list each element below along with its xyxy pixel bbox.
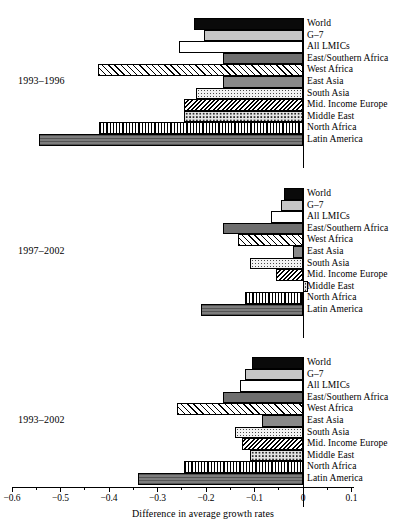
x-tick [254, 487, 255, 492]
bar-label: East Asia [307, 246, 344, 258]
bar-row: World [0, 188, 406, 200]
bar-east-southern-africa [223, 392, 303, 404]
x-tick-label: −0.3 [149, 493, 166, 503]
x-tick-label: −0.6 [3, 493, 20, 503]
x-tick [12, 487, 13, 492]
bar-label: East/Southern Africa [307, 53, 388, 65]
bar-row: Middle East [0, 281, 406, 293]
bar-row: Mid. Income Europe [0, 438, 406, 450]
bar-row: Latin America [0, 473, 406, 485]
x-tick-label: −0.4 [100, 493, 117, 503]
x-minor-tick [230, 487, 231, 490]
bar-latin-america [39, 134, 303, 146]
bar-row: East/Southern Africa [0, 53, 406, 65]
bar-row: G–7 [0, 200, 406, 212]
bar-south-asia [235, 427, 303, 439]
bar-g-7 [245, 369, 303, 381]
bar-all-lmics [179, 41, 303, 53]
bar-label: East/Southern Africa [307, 223, 388, 235]
bar-east-southern-africa [223, 223, 303, 235]
chart-panel: 1997–2002WorldG–7All LMICsEast/Southern … [0, 188, 406, 316]
bar-label: All LMICs [307, 380, 350, 392]
bar-label: South Asia [307, 88, 349, 100]
bar-east-asia [223, 76, 303, 88]
bar-label: West Africa [307, 234, 353, 246]
bar-row: South Asia [0, 258, 406, 270]
x-minor-tick [133, 487, 134, 490]
x-axis-label: Difference in average growth rates [0, 508, 406, 519]
bar-north-africa [99, 122, 303, 134]
bar-label: North Africa [307, 122, 356, 134]
bar-row: G–7 [0, 30, 406, 42]
bar-label: G–7 [307, 30, 324, 42]
bar-label: World [307, 18, 331, 30]
x-tick [60, 487, 61, 492]
bar-all-lmics [271, 211, 303, 223]
bar-row: South Asia [0, 88, 406, 100]
bar-row: East/Southern Africa [0, 223, 406, 235]
bar-row: West Africa [0, 403, 406, 415]
bar-g-7 [204, 30, 303, 42]
bar-row: World [0, 18, 406, 30]
x-tick-label: −0.1 [246, 493, 263, 503]
bar-label: Middle East [307, 111, 354, 123]
bar-mid-income-europe [242, 438, 303, 450]
bar-row: West Africa [0, 234, 406, 246]
x-minor-tick [327, 487, 328, 490]
bar-row: East/Southern Africa [0, 392, 406, 404]
bar-label: Middle East [307, 281, 354, 293]
bar-west-africa [177, 403, 303, 415]
bar-south-asia [250, 258, 303, 270]
bar-row: North Africa [0, 292, 406, 304]
bar-west-africa [98, 64, 303, 76]
bar-row: Mid. Income Europe [0, 99, 406, 111]
bar-label: Middle East [307, 450, 354, 462]
bar-label: G–7 [307, 200, 324, 212]
x-tick-label: −0.5 [52, 493, 69, 503]
x-tick [351, 487, 352, 492]
bar-middle-east [184, 111, 303, 123]
bar-row: Middle East [0, 450, 406, 462]
bar-row: Mid. Income Europe [0, 269, 406, 281]
bar-chart: 1993–1996WorldG–7All LMICsEast/Southern … [0, 0, 406, 526]
x-minor-tick [36, 487, 37, 490]
bar-row: All LMICs [0, 380, 406, 392]
bar-row: North Africa [0, 122, 406, 134]
bar-label: Latin America [307, 304, 363, 316]
bar-middle-east [250, 450, 303, 462]
bar-label: Mid. Income Europe [307, 269, 388, 281]
bar-all-lmics [240, 380, 303, 392]
x-axis: −0.6−0.5−0.4−0.3−0.2−0.100.1 Difference … [0, 487, 406, 526]
bar-label: Mid. Income Europe [307, 99, 388, 111]
bar-world [252, 357, 303, 369]
bar-mid-income-europe [276, 269, 303, 281]
x-minor-tick [278, 487, 279, 490]
bar-row: East Asia [0, 246, 406, 258]
bar-label: South Asia [307, 258, 349, 270]
x-tick [109, 487, 110, 492]
bar-label: North Africa [307, 461, 356, 473]
chart-panel: 1993–2002WorldG–7All LMICsEast/Southern … [0, 357, 406, 485]
bar-label: North Africa [307, 292, 356, 304]
bar-north-africa [245, 292, 303, 304]
bar-row: World [0, 357, 406, 369]
bar-world [194, 18, 303, 30]
bar-label: Latin America [307, 473, 363, 485]
bar-world [284, 188, 303, 200]
x-tick [157, 487, 158, 492]
bar-g-7 [281, 200, 303, 212]
x-tick [206, 487, 207, 492]
bar-label: West Africa [307, 403, 353, 415]
x-tick-label: 0.1 [346, 493, 358, 503]
bar-mid-income-europe [184, 99, 303, 111]
bar-latin-america [138, 473, 303, 485]
bar-row: G–7 [0, 369, 406, 381]
bar-label: World [307, 357, 331, 369]
x-minor-tick [181, 487, 182, 490]
bar-row: South Asia [0, 427, 406, 439]
x-tick-label: −0.2 [197, 493, 214, 503]
bar-row: East Asia [0, 76, 406, 88]
bar-label: East Asia [307, 415, 344, 427]
bar-row: All LMICs [0, 41, 406, 53]
bar-label: All LMICs [307, 41, 350, 53]
